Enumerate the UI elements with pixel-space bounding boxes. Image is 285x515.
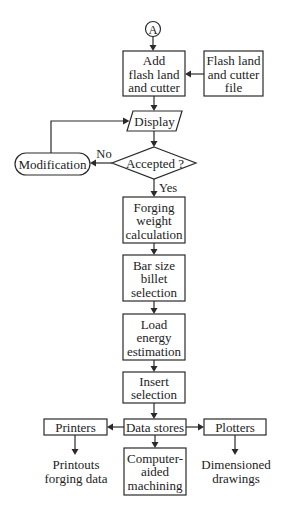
svg-text:selection: selection <box>131 387 178 402</box>
svg-text:Printers: Printers <box>55 420 95 435</box>
arrowhead-icon <box>72 449 79 455</box>
arrowhead-icon <box>151 249 158 255</box>
arrowhead-icon <box>151 413 158 419</box>
arrowhead-icon <box>198 424 204 431</box>
arrowhead-icon <box>107 424 113 431</box>
svg-text:machining: machining <box>128 478 183 493</box>
node-data-stores: Data stores <box>124 419 186 435</box>
node-plotters: Plotters <box>204 419 266 435</box>
node-computer-aided-machining: Computer- aided machining <box>124 448 186 495</box>
connector-label: A <box>148 23 157 37</box>
node-insert-selection: Insert selection <box>123 372 185 403</box>
svg-text:Plotters: Plotters <box>215 420 255 435</box>
svg-text:file: file <box>225 80 243 95</box>
arrowhead-icon <box>151 105 158 111</box>
svg-text:forging data: forging data <box>45 471 108 486</box>
output-printouts: Printouts forging data <box>45 457 108 486</box>
svg-text:Accepted ?: Accepted ? <box>126 156 184 171</box>
connector-a: A <box>146 22 161 37</box>
node-printers: Printers <box>44 419 107 435</box>
arrowhead-icon <box>185 71 191 78</box>
node-load-energy: Load energy estimation <box>123 314 185 360</box>
svg-text:Data stores: Data stores <box>126 420 184 435</box>
node-modification: Modification <box>15 153 90 175</box>
svg-text:and cutter: and cutter <box>128 80 180 95</box>
svg-text:drawings: drawings <box>212 471 260 486</box>
node-add-flash-land: Add flash land and cutter <box>123 51 185 96</box>
arrowhead-icon <box>90 160 96 167</box>
node-flash-land-file: Flash land and cutter file <box>204 51 263 96</box>
edge-label-no: No <box>96 147 111 161</box>
arrowhead-icon <box>151 308 158 314</box>
node-forging-weight: Forging weight calculation <box>123 197 185 243</box>
flowchart: A Add flash land and cutter Flash land a… <box>0 0 285 515</box>
arrowhead-icon <box>151 141 158 147</box>
svg-text:calculation: calculation <box>125 227 183 242</box>
output-dimensioned-drawings: Dimensioned drawings <box>201 457 271 486</box>
svg-text:selection: selection <box>131 285 178 300</box>
arrowhead-icon <box>150 45 157 51</box>
arrowhead-icon <box>151 366 158 372</box>
node-bar-size: Bar size billet selection <box>123 255 185 301</box>
arrowhead-icon <box>232 449 239 455</box>
svg-text:Modification: Modification <box>19 157 87 172</box>
node-display: Display <box>127 111 182 131</box>
arrowhead-icon <box>152 442 159 448</box>
arrowhead-icon <box>151 191 158 197</box>
svg-text:Display: Display <box>134 114 175 129</box>
edge-modification-to-display <box>51 121 124 153</box>
arrowhead-icon <box>123 118 130 125</box>
edge-label-yes: Yes <box>159 181 177 195</box>
node-decision-accepted: Accepted ? <box>112 147 196 179</box>
svg-text:estimation: estimation <box>127 344 182 359</box>
